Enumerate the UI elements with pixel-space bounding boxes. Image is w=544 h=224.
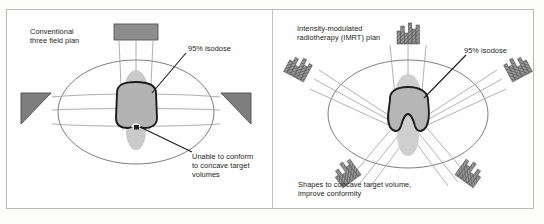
anterior-modulated-beam (397, 23, 419, 44)
conventional-caption: Unable to conform to concave target volu… (192, 152, 253, 180)
notch-marker (134, 125, 139, 130)
isodose-leader-line (424, 55, 466, 98)
left-lateral-wedge (21, 93, 51, 124)
right-anterior-oblique-modulated-beam (503, 53, 533, 82)
isodose-leader-line (152, 53, 186, 93)
right-lateral-wedge (221, 93, 251, 124)
radiotherapy-comparison-figure: Conventional three field plan 95% isodos… (0, 0, 544, 224)
anterior-beam-block (114, 24, 158, 40)
conventional-isodose-label: 95% isodose (188, 44, 231, 53)
imrt-plan-title: Intensity-modulated radiotherapy (IMRT) … (297, 24, 380, 42)
conventional-plan-title: Conventional three field plan (30, 27, 79, 45)
imrt-caption: Shapes to concave target volume, improve… (298, 180, 411, 198)
right-posterior-oblique-modulated-beam (455, 158, 485, 188)
caption-leader-line (140, 127, 192, 152)
left-anterior-oblique-modulated-beam (284, 53, 314, 82)
imrt-isodose-label: 95% isodose (464, 46, 507, 55)
isodose-95-contour (116, 82, 157, 128)
